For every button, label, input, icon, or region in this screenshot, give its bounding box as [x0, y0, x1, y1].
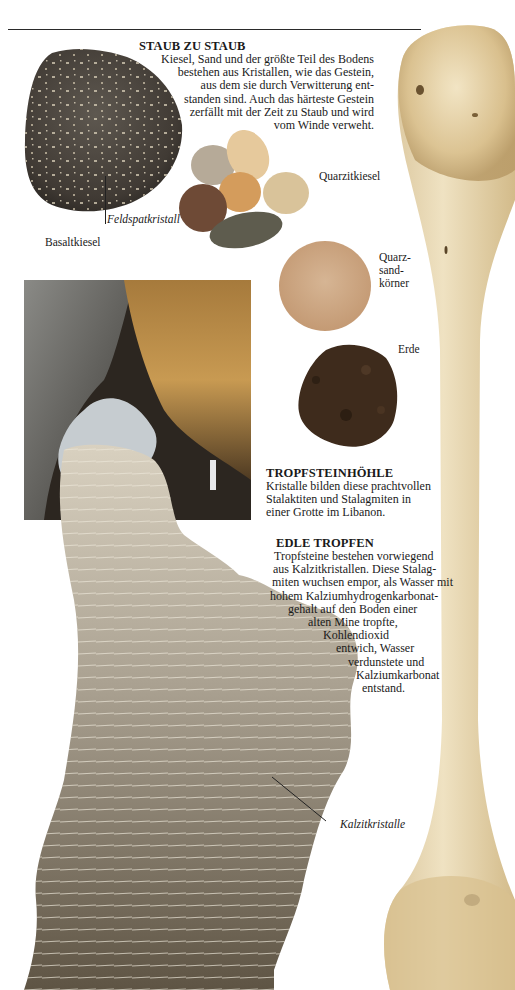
text-line: aus dem sie durch Verwitterung ent-: [130, 79, 374, 92]
text-tropfsteinhoehle: Kristalle bilden diese prachtvollen Stal…: [266, 480, 431, 520]
label-kalzitkristalle: Kalzitkristalle: [340, 818, 405, 831]
text-staub-zu-staub: Kiesel, Sand und der größte Teil des Bod…: [130, 53, 374, 132]
top-rule: [8, 29, 421, 30]
label-quarzitkiesel: Quarzitkiesel: [319, 170, 380, 183]
label-basaltkiesel: Basaltkiesel: [45, 236, 101, 249]
soil-photo: [296, 340, 402, 450]
text-line: miten wuchsen empor, als Wasser mit: [272, 576, 515, 589]
text-line: entwich, Wasser: [336, 642, 515, 655]
label-quarzsandkoerner: Quarz- sand- körner: [379, 251, 411, 290]
quartzite-pebbles-photo: [178, 130, 313, 252]
text-line: einer Grotte im Libanon.: [266, 506, 431, 519]
feldspat-pointer: [105, 176, 106, 224]
kalzit-pointer: [270, 775, 330, 825]
calcite-crystals-photo: [24, 440, 369, 990]
label-line: Quarz-: [379, 251, 411, 264]
quartz-sand-photo: [278, 240, 373, 332]
label-line: sand-: [379, 264, 411, 277]
label-feldspatkristall: Feldspatkristall: [107, 213, 180, 226]
text-line: standen sind. Auch das härteste Gestein: [130, 93, 374, 106]
label-line: körner: [379, 277, 411, 290]
text-line: hohem Kalziumhydrogenkarbonat-: [270, 590, 515, 603]
text-line: entstand.: [362, 682, 515, 695]
label-erde: Erde: [398, 343, 420, 356]
text-line: verdunstete und: [348, 656, 515, 669]
text-edle-tropfen: Tropfsteine bestehen vorwiegend aus Kalz…: [272, 550, 515, 695]
